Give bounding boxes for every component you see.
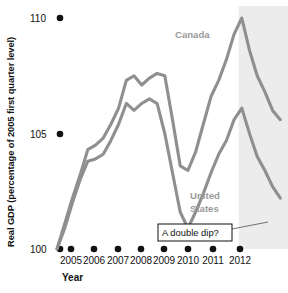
y-tick-dot-110 <box>57 15 64 22</box>
x-tick-dot-2012 <box>237 246 244 253</box>
gdp-line-chart: Real GDP (percentage of 2005 first quart… <box>0 0 288 293</box>
x-tick-dot-2011 <box>210 246 217 253</box>
y-tick-label-110: 110 <box>30 13 46 24</box>
x-tick-label-2007: 2007 <box>107 255 130 266</box>
x-tick-label-2011: 2011 <box>202 255 224 266</box>
x-tick-dot-2007 <box>115 246 122 253</box>
x-tick-dot-2005 <box>68 246 75 253</box>
x-tick-label-2008: 2008 <box>130 255 153 266</box>
chart-figure: Real GDP (percentage of 2005 first quart… <box>0 0 288 293</box>
x-tick-label-2009: 2009 <box>153 255 176 266</box>
y-tick-dot-105 <box>57 131 64 138</box>
series-label-united-states-line2: States <box>190 203 219 214</box>
x-tick-dot-2008 <box>138 246 145 253</box>
x-tick-dot-2006 <box>91 246 98 253</box>
x-tick-dot-2010 <box>185 246 192 253</box>
x-tick-label-2012: 2012 <box>229 255 252 266</box>
x-tick-label-2005: 2005 <box>60 255 83 266</box>
y-tick-label-100: 100 <box>30 244 47 255</box>
x-tick-label-2010: 2010 <box>177 255 200 266</box>
callout-label: A double dip? <box>162 227 219 238</box>
series-label-canada: Canada <box>175 29 210 40</box>
y-axis-label: Real GDP (percentage of 2005 first quart… <box>5 37 16 247</box>
y-tick-label-105: 105 <box>30 129 47 140</box>
series-label-united-states-line1: United <box>190 190 220 201</box>
x-tick-dot-2009 <box>161 246 168 253</box>
x-axis-label: Year <box>62 272 83 283</box>
x-tick-label-2006: 2006 <box>83 255 106 266</box>
